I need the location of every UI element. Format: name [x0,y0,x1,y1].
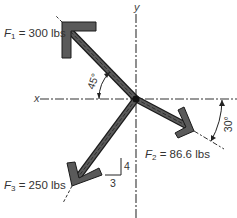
force-f2-symbol: F [145,148,152,160]
force-f1-symbol: F [4,27,11,39]
force-f2-value: = 86.6 lbs [160,148,210,160]
force-f2-label: F2 = 86.6 lbs [145,149,210,162]
x-axis-label: x [34,93,40,104]
origin-point [133,96,140,103]
force-f2-arrow [136,99,224,149]
force-f3-label: F3 = 250 lbs [4,180,66,193]
force-f3-symbol: F [4,179,11,191]
angle-30-label: 30° [223,116,234,132]
y-axis-label: y [134,2,140,13]
slope-rise-label: 4 [124,161,130,172]
force-f3-arrow [63,99,136,203]
force-f1-label: F1 = 300 lbs [4,28,66,41]
angle-arc-30 [211,100,222,141]
force-f3-subscript: 3 [11,184,15,193]
force-f1-subscript: 1 [11,32,15,41]
slope-triangle [105,158,121,175]
force-f3-value: = 250 lbs [19,179,66,191]
force-f2-subscript: 2 [152,153,156,162]
force-f1-value: = 300 lbs [19,27,66,39]
slope-run-label: 3 [110,178,116,189]
